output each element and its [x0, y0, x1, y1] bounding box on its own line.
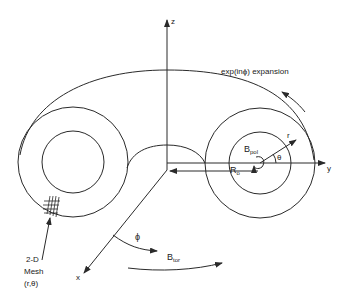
mesh-grid-icon [43, 196, 60, 217]
b-pol-label: Bpol [244, 144, 258, 155]
b-tor-label: Btor [167, 252, 180, 263]
expansion-label: exp(inϕ) expansion [221, 67, 289, 76]
theta-label: θ [277, 153, 282, 162]
mesh-label-line2: Mesh [24, 267, 44, 276]
x-axis [84, 170, 167, 273]
torus-inner-arc [127, 145, 205, 168]
left-outer-circle [18, 107, 128, 217]
y-axis-label: y [327, 164, 331, 173]
mesh-label-line3: (r,θ) [24, 279, 39, 288]
x-axis-label: x [76, 273, 80, 282]
left-inner-circle [42, 131, 104, 193]
b-tor-arc [128, 263, 222, 270]
phi-label: ϕ [135, 232, 140, 242]
z-axis-label: z [171, 17, 175, 26]
r-label: r [287, 131, 290, 140]
mesh-label-line1: 2-D [26, 255, 39, 264]
r0-label: Ro [230, 165, 241, 176]
expansion-arrow [282, 92, 305, 112]
theta-arc [273, 154, 276, 163]
torus-coordinate-diagram: z y x exp(inϕ) expansion Bpol r θ Ro ϕ B… [0, 0, 344, 304]
mesh-pointer [42, 218, 50, 260]
